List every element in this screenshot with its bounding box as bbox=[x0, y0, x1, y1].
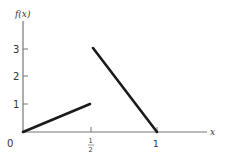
y-ticks: 1 2 3 bbox=[13, 44, 28, 110]
piecewise-function-chart: 1 2 3 1 2 1 0 x f(x) bbox=[0, 0, 225, 161]
series-segment-1 bbox=[23, 104, 90, 132]
y-axis-label: f(x) bbox=[14, 9, 31, 19]
x-tick-label-half-den: 2 bbox=[89, 146, 93, 154]
origin-label: 0 bbox=[7, 138, 13, 149]
x-axis-label: x bbox=[210, 127, 215, 137]
x-tick-label-1: 1 bbox=[153, 139, 159, 149]
series-segment-2 bbox=[93, 48, 157, 132]
x-tick-label-half-num: 1 bbox=[89, 137, 93, 145]
y-tick-label-2: 2 bbox=[13, 71, 19, 82]
y-tick-label-3: 3 bbox=[13, 44, 19, 55]
x-ticks: 1 2 1 bbox=[88, 127, 159, 154]
y-tick-label-1: 1 bbox=[13, 99, 19, 110]
